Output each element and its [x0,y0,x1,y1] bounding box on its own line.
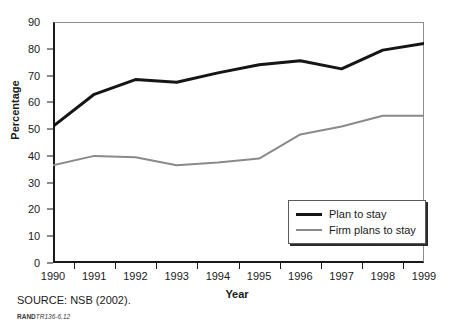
x-tick-label: 1990 [41,270,65,282]
y-axis-title: Percentage [9,65,21,155]
y-tick-label: 40 [28,150,40,162]
x-tick-label: 1998 [371,270,395,282]
y-axis: 0102030405060708090 [0,22,48,263]
legend-swatch-icon [296,213,322,216]
rand-mark: RAND [17,313,36,320]
x-tick-label: 1995 [247,270,271,282]
x-tick-mark [362,263,363,269]
x-tick-label: 1999 [412,270,436,282]
rand-number: TR136-6.12 [36,313,70,320]
y-tick-label: 20 [28,203,40,215]
series-line [53,116,424,166]
rand-document-id: RANDTR136-6.12 [17,313,70,320]
y-tick-label: 80 [28,43,40,55]
x-tick-label: 1993 [164,270,188,282]
series-line [53,43,424,126]
x-tick-label: 1996 [288,270,312,282]
x-tick-mark [197,263,198,269]
y-tick-label: 10 [28,230,40,242]
y-tick-label: 90 [28,16,40,28]
x-tick-label: 1992 [123,270,147,282]
y-tick-label: 70 [28,70,40,82]
x-tick-label: 1994 [206,270,230,282]
y-tick-label: 50 [28,123,40,135]
y-tick-label: 0 [34,257,40,269]
x-tick-mark [403,263,404,269]
x-tick-mark [280,263,281,269]
x-tick-mark [156,263,157,269]
legend-item-firm-plans-to-stay: Firm plans to stay [296,222,416,238]
figure-container: 0102030405060708090 Percentage Year Plan… [0,0,474,336]
legend-item-plan-to-stay: Plan to stay [296,206,416,222]
source-note: SOURCE: NSB (2002). [17,294,131,306]
y-tick-label: 60 [28,96,40,108]
legend-label: Plan to stay [329,208,386,220]
y-tick-label: 30 [28,177,40,189]
x-tick-mark [321,263,322,269]
legend-label: Firm plans to stay [329,224,416,236]
chart-legend: Plan to stay Firm plans to stay [288,200,426,244]
x-tick-mark [239,263,240,269]
x-tick-label: 1997 [329,270,353,282]
x-tick-mark [115,263,116,269]
x-tick-label: 1991 [82,270,106,282]
x-tick-mark [74,263,75,269]
legend-swatch-icon [296,229,322,231]
